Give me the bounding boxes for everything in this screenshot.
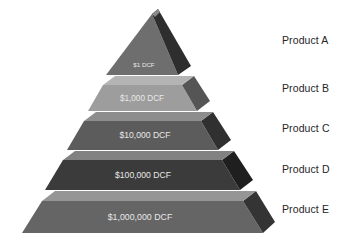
pyramid-tier-e[interactable]: $1,000,000 DCF	[22, 191, 275, 233]
legend-item-product-a[interactable]: Product A	[282, 34, 328, 46]
legend-label-product-e: Product E	[282, 203, 329, 215]
pyramid-tier-d[interactable]: $100,000 DCF	[45, 151, 253, 190]
legend-label-product-c: Product C	[282, 122, 330, 134]
legend-label-product-d: Product D	[282, 163, 330, 175]
tier-d-top-bevel	[63, 151, 234, 160]
legend-item-product-e[interactable]: Product E	[282, 203, 329, 215]
legend-item-product-d[interactable]: Product D	[282, 163, 330, 175]
tier-e-value-label: $1,000,000 DCF	[108, 212, 173, 222]
pyramid-diagram: $1,000,000 DCF $100,000 DCF $10,000 DCF …	[0, 0, 355, 248]
tier-e-top-bevel	[42, 191, 256, 201]
legend-label-product-a: Product A	[282, 34, 328, 46]
tier-d-value-label: $100,000 DCF	[115, 170, 171, 180]
legend-item-product-c[interactable]: Product C	[282, 122, 330, 134]
pyramid-tier-b[interactable]: $1,000 DCF	[88, 76, 210, 111]
pyramid-tier-c[interactable]: $10,000 DCF	[67, 112, 231, 150]
tier-b-value-label: $1,000 DCF	[120, 94, 164, 103]
tier-c-top-bevel	[84, 112, 213, 121]
product-legend: Product A Product B Product C Product D …	[282, 0, 355, 248]
legend-item-product-b[interactable]: Product B	[282, 82, 329, 94]
legend-label-product-b: Product B	[282, 82, 329, 94]
tier-a-value-label: $1 DCF	[133, 61, 155, 68]
pyramid-tier-a[interactable]: $1 DCF	[106, 9, 191, 75]
tier-b-top-bevel	[103, 76, 194, 85]
tier-c-value-label: $10,000 DCF	[119, 130, 170, 140]
